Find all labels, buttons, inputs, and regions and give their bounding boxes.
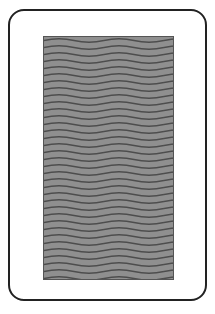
wave-pattern-icon bbox=[44, 37, 174, 280]
card-back-pattern bbox=[43, 36, 174, 280]
